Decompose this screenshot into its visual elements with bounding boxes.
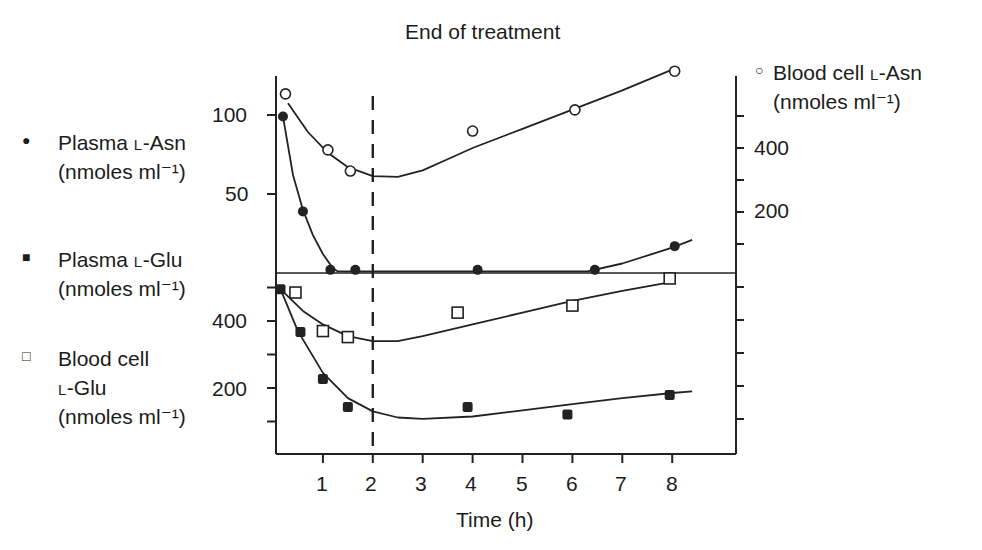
fit-curve	[288, 70, 672, 177]
data-point-open-circle	[468, 126, 478, 136]
data-point-open-square	[317, 326, 328, 337]
data-point-filled-square	[665, 390, 675, 400]
data-point-filled-square	[343, 402, 353, 412]
data-point-filled-circle	[350, 265, 360, 275]
fit-curve	[281, 289, 693, 419]
data-point-filled-circle	[325, 265, 335, 275]
data-point-open-square	[452, 307, 463, 318]
data-point-filled-circle	[670, 241, 680, 251]
data-point-open-circle	[280, 89, 290, 99]
fit-curve	[283, 117, 692, 272]
data-point-open-circle	[570, 105, 580, 115]
data-point-filled-circle	[473, 265, 483, 275]
data-point-filled-square	[318, 374, 328, 384]
data-point-open-circle	[345, 166, 355, 176]
data-point-open-circle	[323, 145, 333, 155]
fit-curve	[281, 282, 673, 341]
data-point-open-square	[342, 332, 353, 343]
data-point-open-circle	[670, 66, 680, 76]
data-point-filled-circle	[278, 112, 288, 122]
data-point-open-square	[290, 287, 301, 298]
data-point-filled-square	[295, 327, 305, 337]
data-point-filled-circle	[298, 206, 308, 216]
data-point-open-square	[567, 300, 578, 311]
data-point-open-square	[664, 273, 675, 284]
data-point-filled-square	[463, 402, 473, 412]
data-point-filled-square	[562, 409, 572, 419]
data-point-filled-circle	[590, 265, 600, 275]
plot-area	[0, 0, 982, 550]
